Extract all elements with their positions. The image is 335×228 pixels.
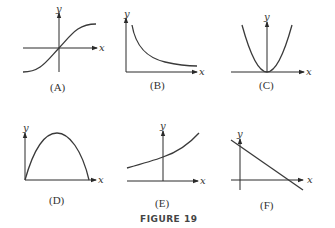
x-axis-label: x bbox=[98, 174, 104, 185]
panel-label: (D) bbox=[49, 194, 65, 207]
x-axis-label: x bbox=[200, 175, 206, 186]
panel-label: (A) bbox=[50, 81, 66, 94]
panel-label: (F) bbox=[260, 199, 274, 212]
panel-label: (B) bbox=[150, 79, 165, 92]
panel-a: x y (A) bbox=[23, 3, 105, 94]
panel-label: (E) bbox=[155, 197, 169, 210]
y-axis-label: y bbox=[22, 122, 29, 133]
panel-label: (C) bbox=[259, 79, 274, 92]
curve-b bbox=[132, 25, 197, 66]
y-axis-label: y bbox=[123, 8, 130, 19]
panel-f: x y (F) bbox=[231, 128, 313, 212]
figure-19: x y (A) x y (B) x y (C) x y (D) x y (E) bbox=[0, 0, 335, 228]
panel-b: x y (B) bbox=[123, 8, 205, 92]
y-axis-label: y bbox=[236, 128, 243, 139]
figure-caption: FIGURE 19 bbox=[140, 214, 197, 224]
y-axis-label: y bbox=[55, 3, 62, 14]
y-axis-label: y bbox=[263, 11, 270, 22]
y-axis-label: y bbox=[159, 120, 166, 131]
x-axis-label: x bbox=[307, 174, 313, 185]
x-axis-label: x bbox=[306, 66, 312, 77]
panel-c: x y (C) bbox=[231, 11, 312, 92]
panel-e: x y (E) bbox=[127, 120, 206, 210]
x-axis-label: x bbox=[199, 66, 205, 77]
panel-d: x y (D) bbox=[22, 122, 104, 207]
line-f bbox=[231, 140, 303, 190]
x-axis-label: x bbox=[99, 42, 105, 53]
curve-d bbox=[25, 133, 89, 180]
